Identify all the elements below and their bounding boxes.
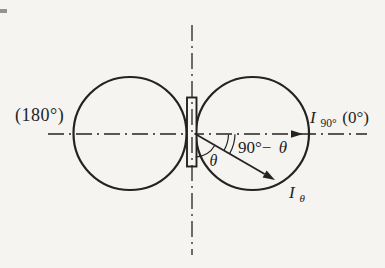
- radiation-pattern-diagram: (180°) I 90° (0°) 90°− θ θ I θ: [0, 0, 385, 268]
- label-180: (180°): [15, 105, 64, 126]
- label-90-minus-theta-prefix: 90°−: [238, 138, 271, 157]
- label-i90: I 90° (0°): [309, 108, 369, 131]
- scan-artifact: [0, 9, 7, 13]
- i-theta-arrowhead: [263, 171, 275, 181]
- radiation-pattern-figure: (180°) I 90° (0°) 90°− θ θ I θ: [0, 0, 385, 268]
- label-i90-base: I: [309, 108, 317, 127]
- label-i-theta-base: I: [288, 183, 296, 202]
- complement-arc-outer: [230, 134, 235, 153]
- complement-arc-inner: [224, 135, 228, 151]
- label-theta: θ: [210, 152, 218, 169]
- i90-arrowhead: [291, 130, 303, 138]
- label-i-theta-subscript: θ: [299, 192, 305, 204]
- label-i-theta: I θ: [288, 183, 305, 204]
- label-i90-suffix: (0°): [342, 108, 369, 127]
- label-90-minus-theta: 90°− θ: [238, 138, 287, 157]
- label-i90-subscript: 90°: [320, 117, 337, 129]
- label-90-minus-theta-theta: θ: [279, 138, 287, 157]
